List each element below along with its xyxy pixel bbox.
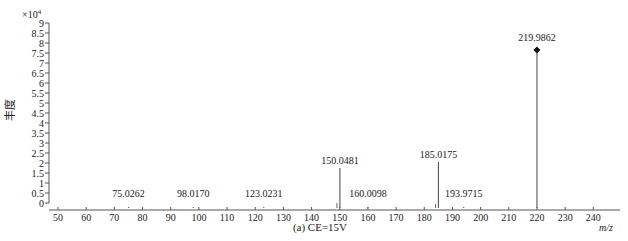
x-tick-label: 100 (191, 212, 206, 223)
x-tick-label: 50 (53, 212, 63, 223)
peak-label: 123.0231 (245, 188, 283, 199)
base-peak-marker (533, 47, 540, 54)
x-tick-label: 110 (220, 212, 235, 223)
chart-title: (a) CE=15V (293, 221, 347, 234)
y-tick-label: 0 (39, 198, 44, 209)
x-tick-label: 230 (558, 212, 573, 223)
y-axis: 00.511.522.533.544.555.566.577.588.59 (32, 18, 50, 209)
peak-label: 193.9715 (445, 188, 483, 199)
y-tick-label: 9 (39, 18, 44, 29)
x-tick-label: 70 (109, 212, 119, 223)
y-tick-label: 1.5 (32, 168, 45, 179)
y-tick-label: 2 (39, 158, 44, 169)
chart-canvas: 00.511.522.533.544.555.566.577.588.59 50… (0, 0, 628, 241)
x-tick-label: 130 (276, 212, 291, 223)
x-tick-label: 180 (417, 212, 432, 223)
peak-label: 185.0175 (420, 149, 458, 160)
x-tick-label: 120 (248, 212, 263, 223)
peak-label: 219.9862 (518, 32, 556, 43)
x-tick-label: 210 (501, 212, 516, 223)
y-tick-label: 7 (39, 58, 44, 69)
peak-label: 160.0098 (349, 188, 387, 199)
y-tick-label: 5 (39, 98, 44, 109)
y-tick-label: 1 (39, 178, 44, 189)
y-tick-label: 3 (39, 138, 44, 149)
peak-label: 150.0481 (321, 155, 359, 166)
y-tick-label: 8 (39, 38, 44, 49)
x-tick-label: 220 (530, 212, 545, 223)
y-tick-label: 6.5 (32, 68, 45, 79)
x-tick-label: 160 (360, 212, 375, 223)
y-tick-label: 8.5 (32, 28, 45, 39)
x-tick-label: 200 (473, 212, 488, 223)
y-tick-label: 4 (39, 118, 44, 129)
y-tick-label: 4.5 (32, 108, 45, 119)
mass-spectrum-chart: 00.511.522.533.544.555.566.577.588.59 50… (0, 0, 628, 241)
y-tick-label: 3.5 (32, 128, 45, 139)
x-tick-label: 80 (138, 212, 148, 223)
peak-label: 98.0170 (177, 188, 210, 199)
y-axis-label: 丰度 (3, 99, 16, 121)
x-axis-label: m/z (599, 222, 613, 233)
x-tick-label: 60 (81, 212, 91, 223)
y-tick-label: 5.5 (32, 88, 45, 99)
x-tick-label: 170 (389, 212, 404, 223)
y-tick-label: 7.5 (32, 48, 45, 59)
peak-label: 75.0262 (112, 188, 145, 199)
y-tick-label: 2.5 (32, 148, 45, 159)
peaks-layer: 75.026298.0170123.0231150.0481160.009818… (112, 32, 555, 208)
x-tick-label: 90 (166, 212, 176, 223)
y-tick-label: 0.5 (32, 188, 45, 199)
y-tick-label: 6 (39, 78, 44, 89)
x-tick-label: 190 (445, 212, 460, 223)
